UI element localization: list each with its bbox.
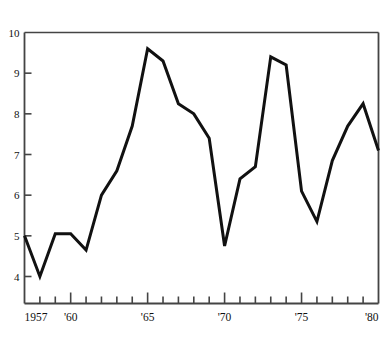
x-tick-label: 1957 [25,311,48,323]
y-tick-label: 6 [14,189,20,201]
chart-canvas: 45678910 1957'60'65'70'75'80 [0,0,391,339]
x-tick-label: '65 [141,311,155,323]
x-tick-label: '75 [295,311,309,323]
y-tick-label: 7 [14,149,20,161]
y-tick-label: 8 [14,108,20,120]
y-tick-label: 4 [14,271,20,283]
y-tick-label: 5 [14,230,20,242]
x-tick-label: '60 [64,311,78,323]
y-tick-label: 10 [9,27,21,39]
x-tick-label: '70 [218,311,232,323]
x-tick-label: '80 [365,311,379,323]
chart-background [0,0,391,339]
y-tick-label: 9 [14,67,20,79]
line-chart: % 45678910 1957'60'65'70'75'80 [0,0,391,339]
